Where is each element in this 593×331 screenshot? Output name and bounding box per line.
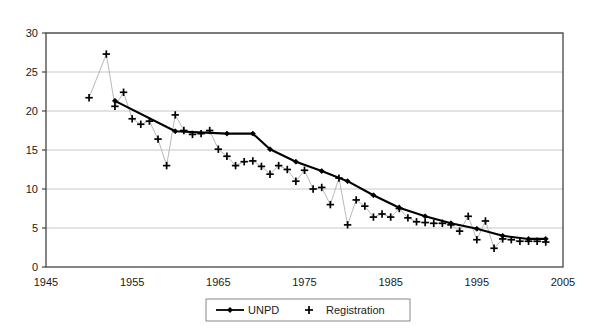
registration-point — [421, 219, 428, 226]
x-tick-label: 1945 — [34, 276, 58, 288]
registration-point — [378, 210, 385, 217]
registration-point — [327, 201, 334, 208]
chart-container: 051015202530 194519551965197519851995200… — [0, 0, 593, 331]
legend: UNPDRegistration — [206, 299, 410, 321]
x-tick-label: 2005 — [551, 276, 575, 288]
x-tick-label: 1975 — [292, 276, 316, 288]
x-axis-labels: 1945195519651975198519952005 — [34, 276, 575, 288]
registration-point — [284, 166, 291, 173]
y-tick-label: 20 — [26, 105, 38, 117]
y-tick-label: 5 — [32, 222, 38, 234]
y-tick-label: 0 — [32, 261, 38, 273]
registration-point — [128, 115, 135, 122]
y-tick-label: 10 — [26, 183, 38, 195]
registration-point — [465, 213, 472, 220]
y-tick-label: 25 — [26, 66, 38, 78]
registration-point — [344, 221, 351, 228]
registration-point — [430, 220, 437, 227]
unpd-point-diamond — [224, 131, 229, 136]
registration-point — [197, 130, 204, 137]
unpd-point-diamond — [474, 226, 479, 231]
unpd-line — [115, 101, 546, 239]
series-registration — [85, 50, 549, 252]
registration-point — [249, 157, 256, 164]
legend-label-unpd: UNPD — [248, 304, 279, 316]
registration-point — [180, 127, 187, 134]
y-tick-label: 15 — [26, 144, 38, 156]
registration-point — [85, 94, 92, 101]
registration-point — [413, 218, 420, 225]
x-tick-label: 1985 — [378, 276, 402, 288]
registration-point — [482, 217, 489, 224]
registration-point — [309, 185, 316, 192]
registration-point — [240, 158, 247, 165]
registration-point — [318, 184, 325, 191]
unpd-point-diamond — [543, 236, 548, 241]
registration-point — [103, 50, 110, 57]
registration-point — [353, 196, 360, 203]
registration-point — [163, 162, 170, 169]
legend-label-registration: Registration — [326, 304, 385, 316]
registration-point — [120, 89, 127, 96]
registration-point — [473, 236, 480, 243]
registration-connector-line — [89, 54, 546, 248]
unpd-point-diamond — [500, 233, 505, 238]
chart-svg: 051015202530 194519551965197519851995200… — [0, 0, 593, 331]
registration-point — [137, 121, 144, 128]
x-tick-label: 1965 — [206, 276, 230, 288]
y-axis-labels: 051015202530 — [26, 27, 38, 273]
x-tick-label: 1955 — [120, 276, 144, 288]
y-tick-label: 30 — [26, 27, 38, 39]
x-tick-label: 1995 — [465, 276, 489, 288]
registration-point — [154, 135, 161, 142]
gridlines — [46, 33, 563, 228]
registration-point — [456, 227, 463, 234]
registration-point — [172, 111, 179, 118]
unpd-point-diamond — [423, 214, 428, 219]
